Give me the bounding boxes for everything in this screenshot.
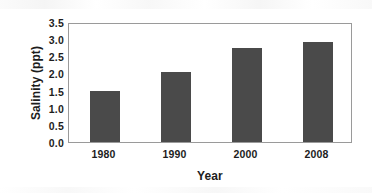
y-axis-tick-label: 2.5 — [36, 52, 64, 62]
bar — [90, 91, 120, 142]
y-axis-tick-label: 2.0 — [36, 69, 64, 79]
bars-layer — [69, 24, 351, 142]
plot-area — [68, 23, 352, 143]
x-axis-tick-labels: 1980199020002008 — [68, 147, 352, 163]
y-axis-tick-label: 3.5 — [36, 18, 64, 28]
x-axis-tick-label: 1980 — [68, 147, 139, 161]
y-axis-tick-label: 0.0 — [36, 138, 64, 148]
x-axis-title: Year — [68, 168, 352, 184]
bar-chart-figure: Salinity (ppt) 0.00.51.01.52.02.53.03.5 … — [0, 0, 372, 193]
y-axis-tick-label: 1.5 — [36, 87, 64, 97]
x-axis-tick-label: 1990 — [139, 147, 210, 161]
bar — [232, 48, 262, 142]
y-axis-tick-label: 1.0 — [36, 104, 64, 114]
x-axis-tick-label: 2000 — [210, 147, 281, 161]
x-axis-tick-label: 2008 — [281, 147, 352, 161]
y-axis-tick-label: 0.5 — [36, 121, 64, 131]
bar — [303, 42, 333, 142]
y-axis-tick-labels: 0.00.51.01.52.02.53.03.5 — [36, 23, 64, 143]
bar — [161, 72, 191, 142]
y-axis-tick-label: 3.0 — [36, 35, 64, 45]
